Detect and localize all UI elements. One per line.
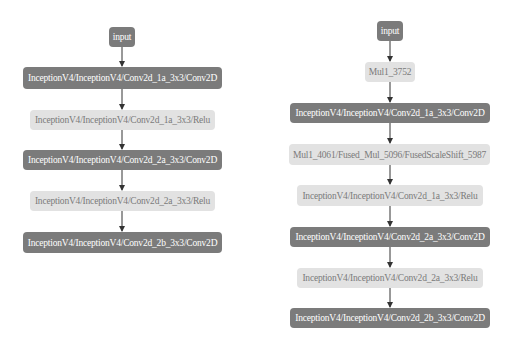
left-node-conv2d-2a-relu[interactable]: InceptionV4/InceptionV4/Conv2d_2a_3x3/Re… <box>30 191 215 211</box>
right-node-conv2d-1a-relu[interactable]: InceptionV4/InceptionV4/Conv2d_1a_3x3/Re… <box>297 185 483 206</box>
right-node-input[interactable]: input <box>377 21 403 41</box>
left-node-conv2d-1a-relu[interactable]: InceptionV4/InceptionV4/Conv2d_1a_3x3/Re… <box>30 110 215 130</box>
right-node-conv2d-2a-conv2d[interactable]: InceptionV4/InceptionV4/Conv2d_2a_3x3/Co… <box>290 227 490 247</box>
edges-layer <box>0 0 509 342</box>
left-node-conv2d-1a-conv2d[interactable]: InceptionV4/InceptionV4/Conv2d_1a_3x3/Co… <box>23 67 222 89</box>
right-node-conv2d-1a-conv2d[interactable]: InceptionV4/InceptionV4/Conv2d_1a_3x3/Co… <box>290 103 490 123</box>
left-node-input[interactable]: input <box>109 27 135 47</box>
right-node-conv2d-2a-relu[interactable]: InceptionV4/InceptionV4/Conv2d_2a_3x3/Re… <box>297 268 483 288</box>
right-node-mul1-3752[interactable]: Mul1_3752 <box>365 62 415 82</box>
right-node-mul1-4061-fused[interactable]: Mul1_4061/Fused_Mul_5096/FusedScaleShift… <box>289 144 490 165</box>
left-node-conv2d-2a-conv2d[interactable]: InceptionV4/InceptionV4/Conv2d_2a_3x3/Co… <box>23 150 222 170</box>
right-node-conv2d-2b-conv2d[interactable]: InceptionV4/InceptionV4/Conv2d_2b_3x3/Co… <box>290 308 490 328</box>
left-node-conv2d-2b-conv2d[interactable]: InceptionV4/InceptionV4/Conv2d_2b_3x3/Co… <box>23 232 222 253</box>
